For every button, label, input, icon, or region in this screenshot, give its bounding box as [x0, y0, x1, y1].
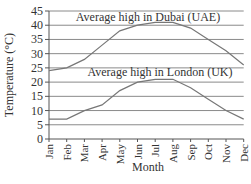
series-line [49, 22, 244, 70]
x-tick-label: Jul [149, 144, 161, 157]
y-tick-label: 25 [31, 61, 43, 75]
x-tick-label: Feb [61, 144, 73, 161]
y-tick-label: 20 [31, 75, 43, 89]
series-annotation: Average high in Dubai (UAE) [76, 10, 220, 24]
y-tick-label: 0 [37, 132, 43, 146]
x-axis-label: Month [132, 160, 164, 175]
x-tick-label: Jun [132, 144, 144, 160]
y-tick-label: 30 [31, 47, 43, 61]
annotations: Average high in Dubai (UAE)Average high … [76, 10, 233, 79]
y-tick-label: 15 [31, 89, 43, 103]
y-tick-label: 40 [31, 18, 43, 32]
series-annotation: Average high in London (UK) [87, 65, 232, 79]
x-tick-label: Nov [220, 144, 232, 163]
line-chart: 051015202530354045 JanFebMarAprMayJunJul… [0, 0, 251, 184]
series-line [49, 79, 244, 119]
y-tick-label: 5 [37, 118, 43, 132]
y-axis: 051015202530354045 [31, 4, 49, 146]
y-tick-label: 10 [31, 104, 43, 118]
x-tick-label: Sep [185, 144, 197, 161]
x-tick-label: Mar [78, 144, 90, 163]
x-tick-label: Dec [238, 144, 250, 162]
x-tick-label: Jan [43, 144, 55, 159]
x-tick-label: Aug [167, 144, 179, 163]
x-tick-label: May [114, 144, 126, 165]
y-tick-label: 35 [31, 32, 43, 46]
x-tick-label: Oct [202, 144, 214, 160]
y-axis-label: Temperature (°C) [2, 33, 17, 117]
y-tick-label: 45 [31, 4, 43, 18]
x-tick-label: Apr [96, 144, 108, 161]
